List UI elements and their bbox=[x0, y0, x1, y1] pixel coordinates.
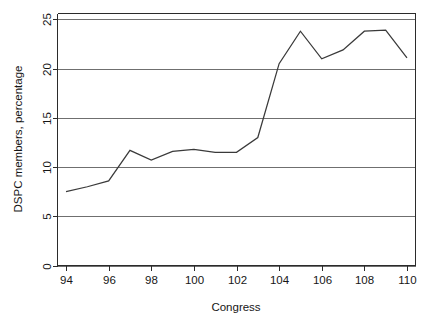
x-tick-label-108: 108 bbox=[355, 274, 374, 286]
x-tick-label-106: 106 bbox=[313, 274, 332, 286]
line-chart: 949698100102104106108110 0510152025 Cong… bbox=[0, 0, 432, 320]
y-tick-label-20: 20 bbox=[41, 63, 53, 76]
x-axis-title: Congress bbox=[211, 301, 260, 313]
x-axis-tick-labels: 949698100102104106108110 bbox=[60, 274, 417, 286]
y-tick-label-0: 0 bbox=[41, 263, 53, 269]
chart-background bbox=[0, 0, 432, 320]
x-tick-label-94: 94 bbox=[60, 274, 73, 286]
y-tick-label-15: 15 bbox=[41, 112, 53, 125]
chart-figure: 949698100102104106108110 0510152025 Cong… bbox=[0, 0, 432, 320]
y-tick-label-5: 5 bbox=[41, 213, 53, 219]
x-tick-label-102: 102 bbox=[228, 274, 247, 286]
x-tick-label-104: 104 bbox=[270, 274, 290, 286]
x-tick-label-100: 100 bbox=[185, 274, 204, 286]
y-tick-label-10: 10 bbox=[41, 161, 53, 174]
x-tick-label-96: 96 bbox=[103, 274, 116, 286]
x-tick-label-98: 98 bbox=[145, 274, 158, 286]
y-axis-title: DSPC members, percentage bbox=[12, 65, 24, 212]
y-tick-label-25: 25 bbox=[41, 13, 53, 26]
x-tick-label-110: 110 bbox=[398, 274, 416, 286]
